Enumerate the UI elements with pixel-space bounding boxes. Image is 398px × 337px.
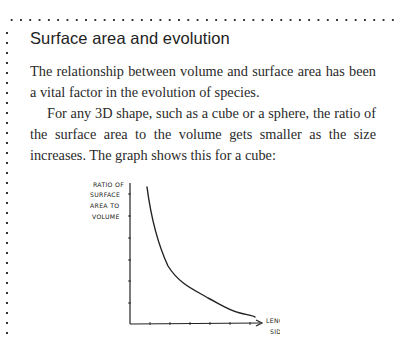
paragraph-intro: The relationship between volume and surf… [30, 61, 376, 103]
y-axis-label: RATIO OF SURFACE AREA TO VOLUME [90, 181, 124, 220]
svg-text:SIDE: SIDE [270, 328, 280, 335]
svg-text:LENGTH OF: LENGTH OF [266, 317, 280, 324]
ratio-chart: RATIO OF SURFACE AREA TO VOLUME LENGTH O… [80, 170, 280, 337]
svg-text:RATIO OF: RATIO OF [93, 181, 124, 188]
svg-text:AREA TO: AREA TO [90, 202, 119, 209]
svg-text:SURFACE: SURFACE [90, 191, 120, 198]
paragraph-ratio: For any 3D shape, such as a cube or a sp… [30, 103, 376, 166]
dotted-border-top [7, 19, 398, 21]
svg-text:VOLUME: VOLUME [92, 213, 120, 220]
dotted-border-left [6, 28, 8, 337]
cube-ratio-curve [147, 187, 255, 317]
section-title: Surface area and evolution [30, 29, 230, 48]
axes [128, 183, 262, 326]
x-axis-label: LENGTH OF SIDE [266, 317, 280, 335]
